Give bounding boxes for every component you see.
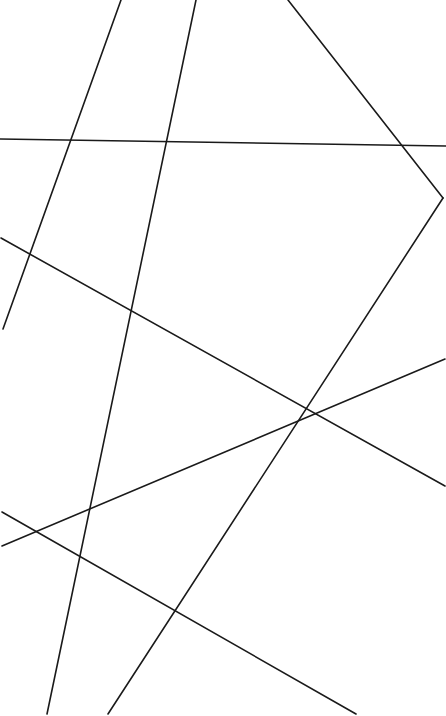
line-arrangement-svg	[0, 0, 446, 716]
canvas-background	[0, 0, 446, 716]
figure-canvas	[0, 0, 446, 716]
